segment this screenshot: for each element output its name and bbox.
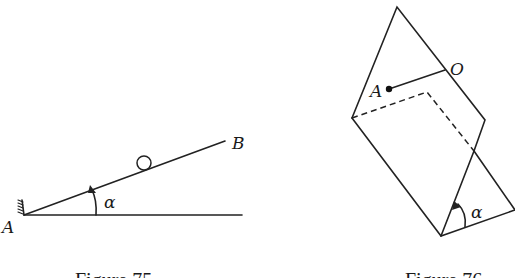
label-o: O [450, 59, 464, 79]
hinge-line [441, 151, 474, 236]
figure-caption: Figure 75 [75, 269, 152, 278]
angle-arc [92, 190, 96, 215]
ball-icon [137, 156, 151, 170]
figure-caption: Figure 76 [405, 269, 482, 278]
figure-76: A O α Figure 76 [352, 7, 515, 278]
label-a: A [368, 81, 382, 101]
label-a: A [0, 217, 14, 237]
point-a-dot [386, 86, 392, 92]
segment-oa [389, 70, 445, 89]
figure-75: A B α Figure 75 [0, 133, 245, 278]
label-alpha: α [471, 202, 483, 222]
lower-plane-edge [352, 118, 515, 236]
label-alpha: α [104, 192, 116, 212]
label-b: B [231, 133, 245, 153]
inclined-rod-ab [24, 141, 225, 215]
diagram-canvas: A B α Figure 75 A O α Figure 76 [0, 0, 515, 278]
fixed-support-hatch [18, 200, 24, 215]
